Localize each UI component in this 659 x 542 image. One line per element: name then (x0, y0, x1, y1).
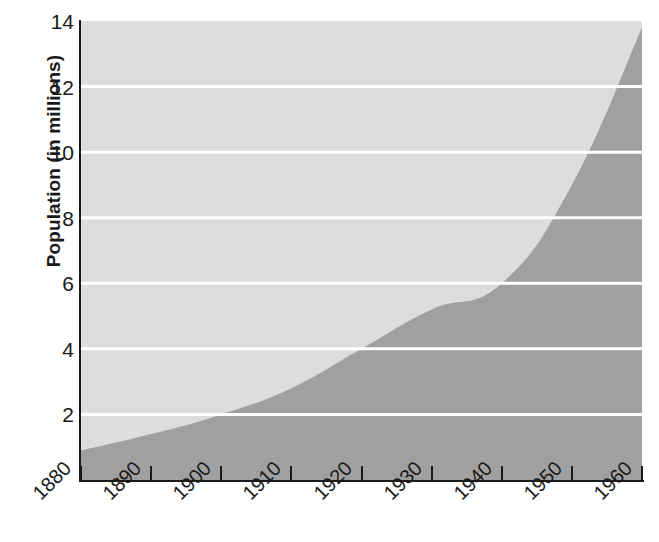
y-axis-tick-label: 8 (34, 207, 74, 228)
y-axis-tick-label: 10 (34, 142, 74, 163)
y-axis-tick-label: 6 (34, 273, 74, 294)
x-axis-tick-mark (361, 466, 363, 481)
x-axis-tick-mark (220, 466, 222, 481)
x-axis-tick-mark (80, 466, 82, 481)
x-axis-tick-mark (641, 466, 643, 481)
plot-area (81, 21, 642, 480)
x-axis-tick-mark (431, 466, 433, 481)
area-series-path (81, 28, 642, 480)
x-axis-tick-mark (290, 466, 292, 481)
x-axis-tick-mark (501, 466, 503, 481)
area-series-svg (81, 21, 642, 480)
y-axis-tick-label: 14 (34, 11, 74, 32)
x-axis-tick-mark (150, 466, 152, 481)
y-axis-tick-label: 2 (34, 404, 74, 425)
y-axis-tick-label: 12 (34, 76, 74, 97)
x-axis-tick-mark (571, 466, 573, 481)
population-area-chart: Population (in millions) 2468101214 1880… (0, 0, 659, 542)
y-axis-tick-label: 4 (34, 338, 74, 359)
